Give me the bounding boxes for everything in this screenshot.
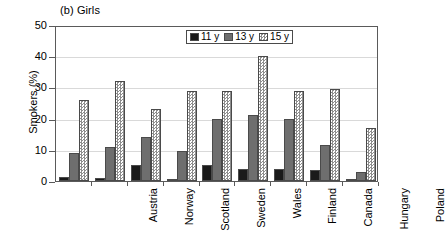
x-tick-label: Scotland [220, 188, 231, 240]
bar-group [271, 27, 307, 181]
x-tick-label: Poland [435, 188, 446, 240]
plot-area [55, 26, 378, 182]
bar-group [164, 27, 200, 181]
bar-group [235, 27, 271, 181]
bar [248, 115, 258, 181]
bar [294, 91, 304, 181]
legend-swatch-icon [224, 33, 233, 41]
bar [141, 137, 151, 181]
x-tick-mark [342, 182, 343, 186]
bar [59, 177, 69, 181]
legend-label: 13 y [235, 32, 254, 42]
x-tick-label: Wales [292, 188, 303, 240]
bar [320, 145, 330, 181]
bar [330, 89, 340, 181]
bar [284, 119, 294, 181]
bar [202, 165, 212, 181]
bar [356, 172, 366, 181]
bar [310, 170, 320, 181]
x-tick-mark [234, 182, 235, 186]
bar-group [200, 27, 236, 181]
bar [274, 169, 284, 181]
y-tick-label: 30 [21, 82, 47, 93]
bar [212, 119, 222, 181]
bar [366, 128, 376, 181]
y-tick-label: 40 [21, 51, 47, 62]
y-tick-label: 0 [21, 176, 47, 187]
bar [95, 178, 105, 181]
x-tick-mark [127, 182, 128, 186]
bar [177, 151, 187, 181]
x-tick-label: Norway [184, 188, 195, 240]
x-tick-mark [91, 182, 92, 186]
legend-swatch-icon [190, 33, 199, 41]
x-tick-mark [163, 182, 164, 186]
legend-item: 13 y [224, 32, 254, 42]
bar [167, 179, 177, 181]
bar-group [343, 27, 378, 181]
x-tick-mark [199, 182, 200, 186]
bar [346, 179, 356, 181]
bar [222, 91, 232, 181]
bar-group [128, 27, 164, 181]
x-tick-mark [378, 182, 379, 186]
x-tick-label: Finland [327, 188, 338, 240]
y-tick-label: 10 [21, 145, 47, 156]
bar [79, 100, 89, 181]
legend-item: 11 y [190, 32, 219, 42]
legend-label: 15 y [270, 32, 289, 42]
x-tick-label: Sweden [256, 188, 267, 240]
y-tick-mark [49, 182, 55, 183]
bar-group [307, 27, 343, 181]
bar-group [92, 27, 128, 181]
x-tick-label: Austria [148, 188, 159, 240]
bar [131, 165, 141, 181]
legend: 11 y13 y15 y [186, 30, 293, 44]
panel-title: (b) Girls [60, 4, 100, 16]
bar [187, 91, 197, 181]
bar-group [56, 27, 92, 181]
legend-swatch-icon [259, 33, 268, 41]
bar [258, 56, 268, 181]
bar [115, 81, 125, 181]
bar [105, 147, 115, 181]
bar [238, 169, 248, 181]
x-tick-label: Canada [363, 188, 374, 240]
bar [69, 153, 79, 181]
legend-item: 15 y [259, 32, 289, 42]
x-tick-label: Hungary [399, 188, 410, 240]
y-tick-label: 50 [21, 20, 47, 31]
y-tick-label: 20 [21, 114, 47, 125]
x-tick-mark [306, 182, 307, 186]
bar [151, 109, 161, 181]
legend-label: 11 y [201, 32, 219, 42]
x-tick-mark [270, 182, 271, 186]
